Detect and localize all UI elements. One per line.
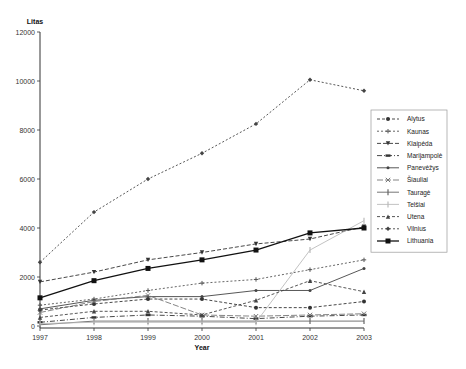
y-tick-label: 0 <box>31 323 35 330</box>
series-alytus <box>38 297 366 312</box>
legend-label: Šiauliai <box>407 175 428 183</box>
y-tick-label: 8000 <box>19 127 35 134</box>
x-tick-label: 2002 <box>302 334 318 341</box>
legend-label: Kaunas <box>407 128 430 135</box>
series-klaipėda <box>38 225 366 285</box>
y-axis-title: Litas <box>27 18 43 25</box>
legend-label: Tauragė <box>407 189 431 197</box>
legend-label: Klaipėda <box>407 140 433 148</box>
x-tick-label: 1997 <box>32 334 48 341</box>
x-tick-label: 2003 <box>356 334 372 341</box>
y-tick-label: 10000 <box>16 78 36 85</box>
y-tick-label: 2000 <box>19 274 35 281</box>
x-tick-label: 2000 <box>194 334 210 341</box>
legend-label: Panevėžys <box>407 164 440 172</box>
legend-label: Alytus <box>407 115 425 123</box>
series-telšiai <box>40 218 364 327</box>
legend: AlytusKaunasKlaipėdaMarijampolėPanevėžys… <box>371 110 447 252</box>
legend-label: Lithuania <box>407 237 434 244</box>
series-vilnius <box>38 78 366 265</box>
plot-area <box>38 78 367 328</box>
y-tick-label: 4000 <box>19 225 35 232</box>
y-tick-label: 12000 <box>16 29 36 36</box>
legend-label: Telšiai <box>407 201 425 208</box>
series-lithuania <box>38 226 367 301</box>
x-tick-label: 1999 <box>140 334 156 341</box>
line-chart: 0200040006000800010000120001997199819992… <box>0 0 466 369</box>
x-axis-title: Year <box>195 344 210 351</box>
y-tick-label: 6000 <box>19 176 35 183</box>
x-tick-label: 2001 <box>248 334 264 341</box>
axes: 0200040006000800010000120001997199819992… <box>16 18 372 351</box>
legend-label: Utena <box>407 213 425 220</box>
x-tick-label: 1998 <box>86 334 102 341</box>
legend-label: Vilnius <box>407 225 427 232</box>
legend-label: Marijampolė <box>407 152 443 160</box>
